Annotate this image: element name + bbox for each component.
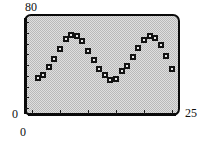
scatter-plot-figure: 80 0 0 25: [0, 0, 206, 142]
y-axis-tick: [25, 108, 29, 109]
y-axis-tick: [25, 44, 29, 45]
data-point: [113, 76, 119, 82]
x-axis-tick: [32, 110, 33, 114]
x-axis-max-label: 25: [185, 107, 197, 119]
y-axis-tick: [25, 76, 29, 77]
y-axis-tick: [25, 54, 29, 55]
y-axis-max-label: 80: [25, 1, 37, 13]
data-point: [46, 64, 52, 70]
data-point: [51, 56, 57, 62]
x-axis-spine: [28, 113, 176, 116]
data-point: [57, 46, 63, 52]
y-axis-tick: [25, 87, 29, 88]
data-point: [119, 68, 125, 74]
data-point: [91, 57, 97, 63]
x-axis-tick: [60, 110, 61, 114]
y-axis-min-label: 0: [12, 108, 18, 120]
data-point: [152, 35, 158, 41]
data-point: [40, 72, 46, 78]
y-axis-tick: [25, 22, 29, 23]
data-point: [85, 48, 91, 54]
x-axis-tick: [88, 110, 89, 114]
data-point: [158, 42, 164, 48]
y-axis-tick: [25, 33, 29, 34]
data-point: [130, 54, 136, 60]
data-point: [169, 66, 175, 72]
x-axis-min-label: 0: [20, 126, 26, 138]
x-axis-tick: [144, 110, 145, 114]
data-point: [163, 53, 169, 59]
y-axis-tick: [25, 65, 29, 66]
data-point: [79, 38, 85, 44]
data-point: [124, 63, 130, 69]
y-axis-tick: [25, 97, 29, 98]
x-axis-tick: [172, 110, 173, 114]
data-point: [135, 45, 141, 51]
x-axis-tick: [116, 110, 117, 114]
plot-area: [24, 14, 180, 116]
